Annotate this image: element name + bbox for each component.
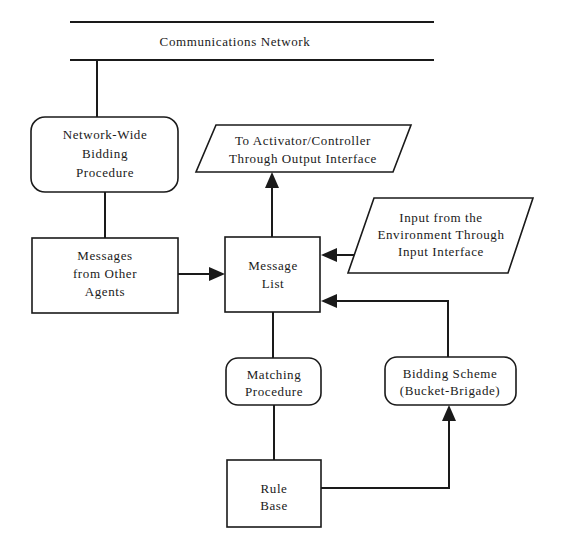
- connector-bidding-scheme-to-list: [334, 301, 448, 357]
- node-matching-procedure: Matching Procedure: [226, 358, 321, 405]
- node-network-bidding-procedure: Network-Wide Bidding Procedure: [31, 117, 178, 192]
- node-messages-from-other-agents: Messages from Other Agents: [32, 238, 178, 313]
- arrowhead-up-icon: [442, 405, 456, 421]
- node-label-line: Matching: [247, 367, 302, 382]
- node-message-list: Message List: [225, 237, 320, 312]
- node-label-line: Rule: [261, 481, 288, 496]
- network-label: Communications Network: [160, 34, 311, 49]
- node-label-line: Network-Wide: [63, 127, 148, 142]
- node-label-line: Input from the: [399, 210, 483, 225]
- node-label-line: from Other: [73, 266, 137, 281]
- communications-network: Communications Network: [70, 22, 434, 60]
- node-label-line: Bidding Scheme: [403, 366, 498, 381]
- node-output-interface: To Activator/Controller Through Output I…: [196, 125, 411, 172]
- arrowhead-left-icon: [321, 294, 337, 308]
- connector-rulebase-to-bidding-scheme: [321, 419, 449, 488]
- node-label-line: Procedure: [245, 384, 303, 399]
- node-label-line: Messages: [77, 248, 132, 263]
- node-label-line: Procedure: [76, 165, 134, 180]
- node-label-line: Message: [248, 258, 298, 273]
- arrowhead-up-icon: [265, 172, 279, 188]
- node-input-interface: Input from the Environment Through Input…: [348, 198, 533, 273]
- node-rule-base: Rule Base: [227, 460, 321, 527]
- arrowhead-left-icon: [321, 248, 337, 262]
- node-bidding-scheme: Bidding Scheme (Bucket-Brigade): [385, 357, 516, 405]
- node-label-line: (Bucket-Brigade): [400, 383, 501, 398]
- node-label-line: Agents: [85, 284, 125, 299]
- node-label-line: Environment Through: [377, 227, 504, 242]
- node-label-line: Input Interface: [398, 244, 484, 259]
- agent-architecture-diagram: Communications Network Network-Wide Bidd…: [0, 0, 561, 552]
- arrowhead-right-icon: [209, 267, 225, 281]
- node-label-line: Through Output Interface: [229, 151, 377, 166]
- node-label-line: List: [262, 276, 285, 291]
- box: [225, 237, 320, 312]
- node-label-line: Bidding: [82, 146, 128, 161]
- node-label-line: Base: [260, 498, 288, 513]
- node-label-line: To Activator/Controller: [235, 133, 371, 148]
